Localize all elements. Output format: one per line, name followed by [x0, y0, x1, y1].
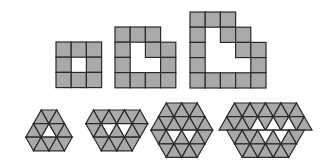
hex-figure-2: [86, 110, 148, 151]
square-cell: [161, 57, 176, 72]
hex-figure-3: [151, 103, 213, 157]
square-cell: [205, 73, 220, 88]
hex-figure-4: [219, 103, 312, 157]
square-cell: [71, 72, 86, 87]
square-cell: [86, 57, 101, 72]
square-cell: [86, 72, 101, 87]
square-cell: [190, 58, 205, 73]
square-figure-1: [56, 42, 102, 88]
square-cell: [86, 42, 101, 57]
square-cell: [71, 42, 86, 57]
square-cell: [220, 12, 235, 27]
square-cell: [115, 57, 130, 72]
square-cell: [190, 12, 205, 27]
square-cell: [161, 42, 176, 57]
square-figure-2: [115, 27, 176, 88]
square-cell: [56, 57, 71, 72]
square-figure-3: [190, 12, 266, 88]
square-cell: [251, 58, 266, 73]
square-cell: [130, 73, 145, 88]
square-cell: [145, 27, 160, 42]
square-cell: [251, 73, 266, 88]
square-cell: [190, 73, 205, 88]
square-cell: [236, 42, 251, 57]
square-cell: [205, 12, 220, 27]
square-cell: [115, 73, 130, 88]
square-cell: [56, 42, 71, 57]
tiling-figures-diagram: [0, 0, 321, 165]
square-cell: [236, 73, 251, 88]
square-cell: [220, 73, 235, 88]
square-cell: [190, 27, 205, 42]
square-cell: [190, 42, 205, 57]
square-cell: [236, 27, 251, 42]
square-cell: [130, 27, 145, 42]
square-cell: [220, 27, 235, 42]
square-cell: [56, 72, 71, 87]
square-cell: [161, 73, 176, 88]
hex-figure-1: [26, 110, 73, 151]
square-cell: [145, 42, 160, 57]
square-cell: [251, 42, 266, 57]
square-cell: [115, 42, 130, 57]
square-cell: [145, 73, 160, 88]
square-cell: [115, 27, 130, 42]
